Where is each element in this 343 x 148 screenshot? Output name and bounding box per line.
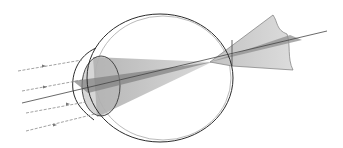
incoming-ray (26, 102, 86, 113)
incoming-ray (18, 60, 82, 71)
ray-arrowheads (42, 65, 70, 127)
eye-diagram (0, 0, 343, 148)
eye-diagram-svg (0, 0, 343, 148)
arrow-icon (43, 86, 47, 89)
arrow-icon (42, 65, 46, 68)
incoming-ray (26, 114, 95, 131)
